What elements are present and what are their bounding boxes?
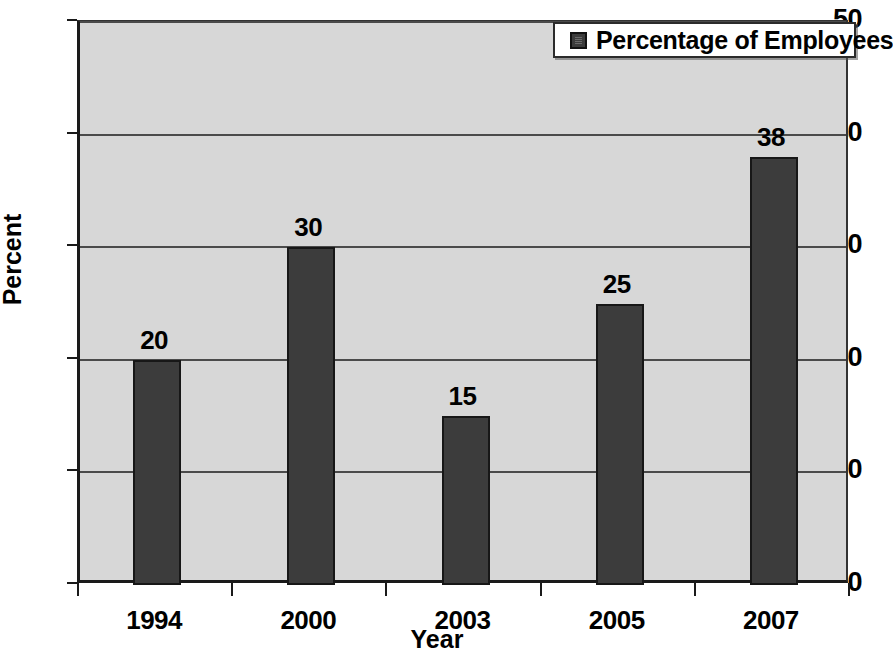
x-tick-mark-2: [385, 583, 387, 596]
x-tick-label-1994: 1994: [84, 605, 224, 636]
x-tick-label-2005: 2005: [547, 605, 687, 636]
y-tick-mark-0: [67, 582, 77, 584]
legend-label: Percentage of Employees: [596, 26, 893, 55]
legend: Percentage of Employees: [553, 22, 856, 58]
plot-area: [77, 20, 848, 583]
y-tick-mark-20: [67, 357, 77, 359]
legend-color-swatch: [570, 32, 587, 49]
x-tick-mark-0: [77, 583, 79, 596]
plot-inner: [80, 22, 846, 580]
x-tick-mark-5: [848, 583, 850, 596]
y-axis-title: Percent: [0, 180, 27, 340]
x-tick-mark-4: [694, 583, 696, 596]
y-tick-mark-30: [67, 244, 77, 246]
bar-2000: [287, 247, 335, 585]
bar-value-2005: 25: [557, 269, 677, 300]
x-tick-mark-3: [540, 583, 542, 596]
gridline-30: [80, 246, 846, 248]
y-tick-mark-50: [67, 19, 77, 21]
bar-value-2003: 15: [403, 381, 523, 412]
bar-2007: [750, 157, 798, 585]
gridline-20: [80, 359, 846, 361]
bar-2005: [596, 304, 644, 586]
x-tick-label-2000: 2000: [238, 605, 378, 636]
y-tick-mark-10: [67, 469, 77, 471]
bar-1994: [133, 360, 181, 585]
y-tick-mark-40: [67, 132, 77, 134]
bar-value-2000: 30: [248, 212, 368, 243]
bar-value-2007: 38: [711, 122, 831, 153]
x-tick-mark-1: [231, 583, 233, 596]
bar-value-1994: 20: [94, 325, 214, 356]
x-tick-label-2007: 2007: [701, 605, 841, 636]
x-axis-title: Year: [377, 625, 497, 654]
bar-2003: [442, 416, 490, 585]
